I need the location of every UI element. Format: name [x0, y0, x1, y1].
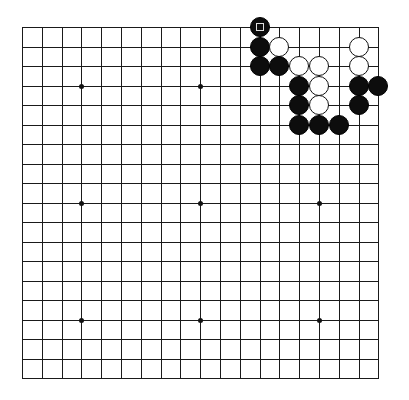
black-stone [289, 115, 309, 135]
black-stone [250, 56, 270, 76]
white-stone [309, 95, 329, 115]
star-point [198, 201, 203, 206]
star-point [317, 201, 322, 206]
grid-line-horizontal [22, 378, 379, 379]
black-stone [250, 17, 270, 37]
black-stone [349, 95, 369, 115]
white-stone [309, 76, 329, 96]
white-stone [309, 56, 329, 76]
grid-line-vertical [240, 27, 241, 379]
star-point [317, 318, 322, 323]
grid-line-horizontal [22, 242, 379, 243]
black-stone [368, 76, 388, 96]
white-stone [289, 56, 309, 76]
black-stone [250, 37, 270, 57]
grid-line-horizontal [22, 281, 379, 282]
star-point [79, 318, 84, 323]
white-stone [349, 37, 369, 57]
grid-line-vertical [260, 27, 261, 379]
black-stone [269, 56, 289, 76]
go-board[interactable] [0, 0, 409, 400]
last-move-marker-icon [256, 23, 264, 31]
grid-line-horizontal [22, 300, 379, 301]
grid-line-horizontal [22, 222, 379, 223]
black-stone [309, 115, 329, 135]
grid-line-horizontal [22, 359, 379, 360]
grid-line-horizontal [22, 339, 379, 340]
black-stone [329, 115, 349, 135]
star-point [79, 84, 84, 89]
black-stone [289, 95, 309, 115]
white-stone [349, 56, 369, 76]
star-point [198, 318, 203, 323]
star-point [198, 84, 203, 89]
white-stone [269, 37, 289, 57]
star-point [79, 201, 84, 206]
grid-line-horizontal [22, 261, 379, 262]
black-stone [349, 76, 369, 96]
black-stone [289, 76, 309, 96]
grid-line-vertical [279, 27, 280, 379]
grid-line-vertical [220, 27, 221, 379]
grid-line-vertical [339, 27, 340, 379]
